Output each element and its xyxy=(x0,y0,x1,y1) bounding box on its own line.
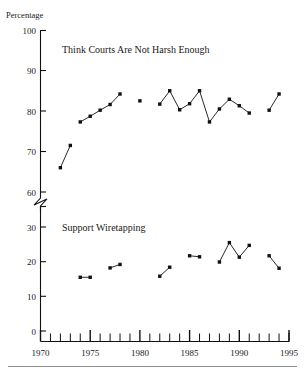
series-line-segment xyxy=(269,94,279,110)
lower-series-plot xyxy=(79,241,281,279)
data-point-marker xyxy=(118,263,121,266)
data-point-marker xyxy=(248,111,251,114)
data-point-marker xyxy=(218,260,221,263)
chart-canvas: Percentage 100 90 80 70 60 Think Courts … xyxy=(0,0,305,378)
lower-series-annotation: Support Wiretapping xyxy=(62,222,146,233)
series-line-segment xyxy=(60,145,70,167)
data-point-marker xyxy=(188,254,191,257)
series-line-segment xyxy=(269,256,279,268)
upper-y-tick-label-100: 100 xyxy=(23,26,37,36)
upper-series-plot xyxy=(59,89,281,169)
data-point-marker xyxy=(69,144,72,147)
data-point-marker xyxy=(238,104,241,107)
data-point-marker xyxy=(89,115,92,118)
series-line-segment xyxy=(219,243,249,262)
x-axis-tick-labels: 197019751980198519901995 xyxy=(32,348,299,358)
x-axis: 197019751980198519901995 xyxy=(32,330,299,358)
data-point-marker xyxy=(277,267,280,270)
lower-y-tick-label-10: 10 xyxy=(27,292,37,302)
y-axis-title: Percentage xyxy=(6,10,44,20)
x-axis-tick-label: 1990 xyxy=(230,348,249,358)
lower-y-tick-label-0: 0 xyxy=(32,327,37,337)
data-point-marker xyxy=(89,276,92,279)
lower-y-ticks xyxy=(41,227,47,331)
x-axis-tick-label: 1985 xyxy=(181,348,200,358)
data-point-marker xyxy=(59,166,62,169)
data-point-marker xyxy=(158,275,161,278)
data-point-marker xyxy=(238,255,241,258)
data-point-marker xyxy=(168,89,171,92)
x-axis-tick-label: 1995 xyxy=(280,348,299,358)
upper-y-tick-label-80: 80 xyxy=(27,107,37,117)
data-point-marker xyxy=(108,103,111,106)
data-point-marker xyxy=(228,98,231,101)
lower-panel: 30 20 10 0 Support Wiretapping xyxy=(27,206,281,337)
data-point-marker xyxy=(158,102,161,105)
data-point-marker xyxy=(178,108,181,111)
upper-y-tick-label-90: 90 xyxy=(27,66,37,76)
upper-series-annotation: Think Courts Are Not Harsh Enough xyxy=(62,44,210,55)
data-point-marker xyxy=(108,266,111,269)
data-point-marker xyxy=(218,107,221,110)
series-line-segment xyxy=(160,91,249,122)
data-point-marker xyxy=(79,120,82,123)
upper-panel: 100 90 80 70 60 Think Courts Are Not Har… xyxy=(23,26,281,198)
lower-y-tick-label-20: 20 xyxy=(27,257,37,267)
data-point-marker xyxy=(208,120,211,123)
x-axis-ticks xyxy=(41,330,290,342)
data-point-marker xyxy=(277,92,280,95)
lower-y-tick-label-30: 30 xyxy=(27,223,37,233)
data-point-marker xyxy=(267,108,270,111)
data-point-marker xyxy=(138,99,141,102)
upper-y-ticks xyxy=(41,71,47,193)
x-axis-tick-label: 1970 xyxy=(32,348,51,358)
data-point-marker xyxy=(267,254,270,257)
data-point-marker xyxy=(98,108,101,111)
upper-y-tick-label-60: 60 xyxy=(27,188,37,198)
data-point-marker xyxy=(168,266,171,269)
data-point-marker xyxy=(198,255,201,258)
x-axis-tick-label: 1980 xyxy=(131,348,150,358)
data-point-marker xyxy=(228,241,231,244)
data-point-marker xyxy=(188,102,191,105)
upper-y-tick-label-70: 70 xyxy=(27,147,37,157)
series-line-segment xyxy=(80,94,120,122)
data-point-marker xyxy=(79,276,82,279)
chart-container: Percentage 100 90 80 70 60 Think Courts … xyxy=(0,0,305,378)
data-point-marker xyxy=(198,89,201,92)
x-axis-tick-label: 1975 xyxy=(81,348,100,358)
data-point-marker xyxy=(118,92,121,95)
data-point-marker xyxy=(248,244,251,247)
